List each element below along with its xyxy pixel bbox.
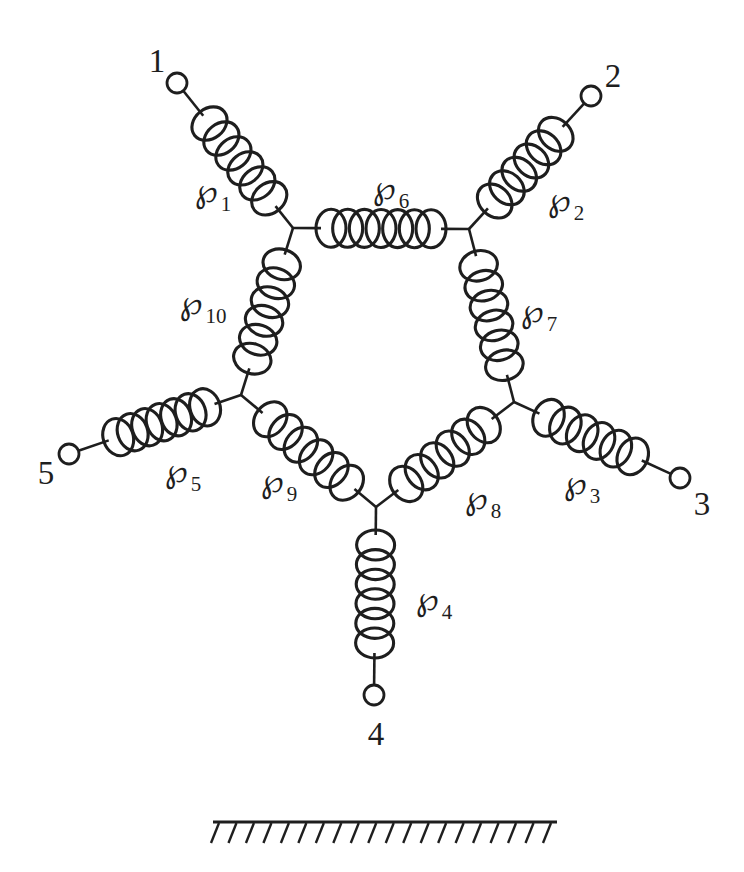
terminal-2-node-circle — [581, 86, 601, 106]
terminal-4-label: 4 — [368, 716, 385, 752]
spring-2: ℘2 — [469, 103, 584, 229]
spring-coil-loop — [544, 402, 587, 449]
spring-label-subscript: 1 — [221, 192, 232, 216]
ground-hatch-stroke — [421, 823, 429, 843]
spring-label-subscript: 6 — [399, 189, 410, 213]
ground-hatch-stroke — [456, 823, 464, 843]
spring-coil-loop — [259, 244, 304, 284]
terminal-3: 3 — [670, 468, 710, 522]
ground-hatch-stroke — [246, 823, 254, 843]
spring-label-subscript: 10 — [206, 304, 227, 328]
weierstrass-p-symbol: ℘ — [465, 478, 488, 517]
spring-coil-loop — [561, 410, 604, 457]
ground-hatch-stroke — [263, 823, 271, 843]
spring-coil-loop — [577, 417, 620, 464]
weierstrass-p-symbol: ℘ — [195, 171, 218, 210]
weierstrass-p-symbol: ℘ — [521, 291, 544, 330]
ground-hatch-stroke — [438, 823, 446, 843]
ground-hatch-stroke — [333, 823, 341, 843]
spring-coil-loop — [253, 263, 298, 303]
spring-coil-loop — [230, 339, 275, 379]
terminal-1: 1 — [149, 43, 187, 93]
spring-coil-loop — [349, 209, 379, 247]
ground-hatch-stroke — [403, 823, 411, 843]
spring-coil-loop — [456, 246, 500, 285]
ground-hatch-stroke — [228, 823, 236, 843]
spring-label-4: ℘4 — [416, 579, 453, 624]
spring-coil-loop — [366, 209, 396, 247]
ground-hatch-stroke — [386, 823, 394, 843]
ground-hatch-stroke — [316, 823, 324, 843]
terminal-2: 2 — [581, 58, 621, 106]
ground-hatch-stroke — [491, 823, 499, 843]
terminal-5-node-circle — [59, 444, 79, 464]
ground-hatching — [211, 822, 557, 843]
terminal-2-label: 2 — [605, 58, 622, 94]
spring-label-8: ℘8 — [465, 478, 502, 523]
weierstrass-p-symbol: ℘ — [416, 579, 439, 618]
terminal-3-label: 3 — [694, 486, 711, 522]
ground-hatch-stroke — [351, 823, 359, 843]
spring-label-1: ℘1 — [195, 171, 232, 216]
spring-coil-loop — [477, 326, 521, 365]
spring-coil-loop — [472, 306, 516, 345]
diagram-page: ℘1℘2℘3℘4℘5℘6℘7℘8℘9℘1012345 — [0, 0, 744, 872]
spring-label-subscript: 8 — [491, 499, 502, 523]
spring-label-2: ℘2 — [548, 180, 585, 225]
terminal-5-label: 5 — [38, 455, 55, 491]
spring-coil-loop — [383, 210, 413, 248]
ground-hatch-stroke — [368, 823, 376, 843]
spring-label-7: ℘7 — [521, 291, 558, 336]
spring-6: ℘6 — [293, 168, 469, 248]
spring-label-subscript: 7 — [547, 312, 558, 336]
spring-1: ℘1 — [183, 91, 293, 228]
ground-hatch-stroke — [281, 823, 289, 843]
ground-hatch-stroke — [526, 823, 534, 843]
spring-coil-loop — [333, 209, 363, 247]
terminal-4: 4 — [364, 685, 384, 752]
spring-coil-loop — [399, 210, 429, 248]
spring-label-5: ℘5 — [165, 451, 202, 496]
weierstrass-p-symbol: ℘ — [564, 463, 587, 502]
spring-coil-loop — [467, 286, 511, 325]
spring-network-diagram: ℘1℘2℘3℘4℘5℘6℘7℘8℘9℘1012345 — [0, 0, 744, 872]
spring-label-subscript: 3 — [590, 484, 601, 508]
spring-label-3: ℘3 — [564, 463, 601, 508]
spring-coil-loop — [519, 124, 567, 172]
spring-label-subscript: 5 — [191, 472, 202, 496]
spring-label-10: ℘10 — [179, 283, 226, 328]
spring-3: ℘3 — [514, 394, 671, 508]
spring-coil-loop — [462, 266, 506, 305]
ground-hatch-stroke — [473, 823, 481, 843]
spring-coil-loop — [594, 425, 637, 472]
terminal-1-label: 1 — [149, 43, 166, 79]
spring-label-6: ℘6 — [373, 168, 410, 213]
ground-hatch-stroke — [508, 823, 516, 843]
ground-hatch-stroke — [543, 823, 551, 843]
spring-coil-loop — [495, 150, 543, 198]
spring-coil-loop — [482, 346, 526, 385]
spring-label-subscript: 4 — [442, 600, 453, 624]
spring-9: ℘9 — [241, 395, 376, 507]
weierstrass-p-symbol: ℘ — [548, 180, 571, 219]
spring-8: ℘8 — [376, 401, 514, 523]
terminal-5: 5 — [38, 444, 79, 491]
spring-coil-loop — [507, 137, 555, 185]
weierstrass-p-symbol: ℘ — [179, 283, 202, 322]
spring-coil-loop — [236, 320, 281, 360]
spring-label-subscript: 2 — [574, 201, 585, 225]
spring-coil-loop — [527, 394, 570, 441]
spring-label-9: ℘9 — [261, 461, 298, 506]
spring-coil-loop — [611, 433, 654, 480]
weierstrass-p-symbol: ℘ — [261, 461, 284, 500]
spring-label-subscript: 9 — [287, 482, 298, 506]
ground-hatch-stroke — [211, 823, 219, 843]
spring-coil-loop — [247, 282, 292, 322]
terminal-3-node-circle — [670, 468, 690, 488]
spring-4: ℘4 — [355, 507, 452, 685]
spring-5: ℘5 — [78, 385, 241, 496]
terminal-4-node-circle — [364, 685, 384, 705]
spring-coil-loop — [241, 301, 286, 341]
spring-7: ℘7 — [456, 229, 557, 402]
weierstrass-p-symbol: ℘ — [373, 168, 396, 207]
